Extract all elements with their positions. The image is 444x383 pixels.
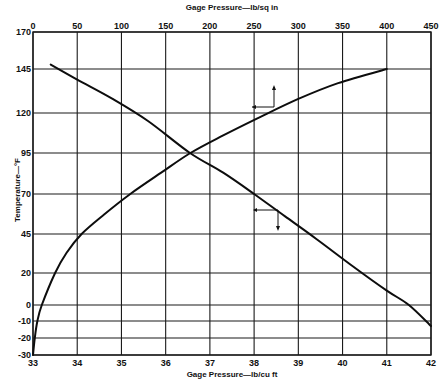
y-tick-label: 70 <box>21 189 31 199</box>
top-tick-label: 150 <box>158 21 173 31</box>
y-tick-label: 45 <box>21 229 31 239</box>
chart: 050100150200250300350400450 333435363738… <box>0 0 444 383</box>
bottom-tick-label: 38 <box>249 358 259 368</box>
y-tick-label: 170 <box>16 27 31 37</box>
curve-pressure-lb-cu-ft <box>51 65 431 327</box>
top-tick-label: 100 <box>114 21 129 31</box>
y-tick-label: 0 <box>26 300 31 310</box>
y-tick-label: 145 <box>16 64 31 74</box>
top-tick-label: 0 <box>30 21 35 31</box>
y-tick-label: 120 <box>16 108 31 118</box>
y-tick-label: -10 <box>18 316 31 326</box>
y-tick-label: -30 <box>18 350 31 360</box>
y-axis-title: Temperature—°F <box>13 158 22 222</box>
top-tick-label: 400 <box>379 21 394 31</box>
bottom-tick-label: 34 <box>72 358 82 368</box>
horizontal-gridlines <box>33 32 431 355</box>
bottom-tick-label: 36 <box>161 358 171 368</box>
top-tick-label: 50 <box>72 21 82 31</box>
top-axis-ticks: 050100150200250300350400450 <box>30 21 438 31</box>
y-tick-label: -20 <box>18 333 31 343</box>
bottom-tick-label: 41 <box>382 358 392 368</box>
bottom-tick-label: 35 <box>116 358 126 368</box>
bottom-tick-label: 39 <box>293 358 303 368</box>
arrow-to-bottom-axis-annotation <box>253 208 280 231</box>
top-tick-label: 200 <box>202 21 217 31</box>
bottom-axis-ticks: 33343536373839404142 <box>28 358 436 368</box>
arrow-up-icon <box>272 85 276 90</box>
top-tick-label: 300 <box>291 21 306 31</box>
bottom-axis-title: Gage Pressure—lb/cu ft <box>187 370 278 379</box>
bottom-tick-label: 40 <box>338 358 348 368</box>
top-tick-label: 250 <box>247 21 262 31</box>
arrow-down-icon <box>276 226 280 231</box>
top-tick-label: 350 <box>335 21 350 31</box>
y-tick-label: 95 <box>21 148 31 158</box>
y-tick-label: 20 <box>21 268 31 278</box>
top-axis-title: Gage Pressure—lb/sq in <box>186 3 279 12</box>
bottom-tick-label: 42 <box>426 358 436 368</box>
bottom-tick-label: 37 <box>205 358 215 368</box>
top-tick-label: 450 <box>423 21 438 31</box>
arrow-to-top-axis-annotation <box>252 85 276 109</box>
